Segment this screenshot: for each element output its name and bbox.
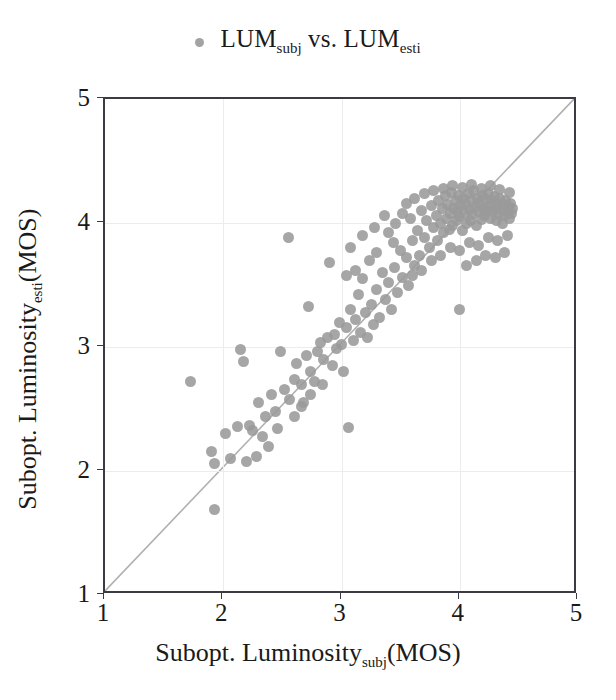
data-point: [251, 451, 262, 462]
data-point: [206, 446, 217, 457]
data-point: [336, 339, 347, 350]
data-point: [366, 299, 377, 310]
y-tick-mark: [97, 221, 103, 222]
data-point: [185, 376, 196, 387]
scatter-plot-figure: LUMsubj vs. LUMesti 12345 12345 Subopt. …: [0, 0, 616, 700]
data-point: [426, 255, 437, 266]
data-point: [454, 245, 465, 256]
data-point: [379, 210, 390, 221]
x-axis-title-unit: (MOS): [387, 638, 461, 667]
x-tick-mark: [221, 593, 222, 599]
y-tick-mark: [97, 469, 103, 470]
plot-canvas: [105, 99, 574, 591]
data-point: [257, 431, 268, 442]
data-point: [327, 360, 338, 371]
data-point: [392, 287, 403, 298]
x-axis-title: Subopt. Luminositysubj(MOS): [0, 640, 616, 670]
y-tick-label: 5: [50, 85, 90, 110]
dot-marker-icon: [195, 38, 204, 47]
data-point: [305, 389, 316, 400]
data-point: [329, 329, 340, 340]
data-point: [296, 401, 307, 412]
x-tick-label: 1: [97, 600, 110, 625]
data-point: [403, 280, 414, 291]
y-tick-mark: [97, 97, 103, 98]
data-point: [303, 301, 314, 312]
data-point: [407, 270, 418, 281]
data-point: [386, 304, 397, 315]
gridline-vertical: [460, 99, 461, 591]
y-tick-label: 3: [50, 333, 90, 358]
gridline-horizontal: [105, 471, 574, 472]
data-point: [275, 346, 286, 357]
plot-area: [103, 97, 576, 593]
x-tick-label: 3: [333, 600, 346, 625]
data-point: [301, 350, 312, 361]
data-point: [225, 453, 236, 464]
data-point: [502, 230, 513, 241]
legend-sub-esti: esti: [400, 40, 421, 56]
x-axis-title-main: Subopt. Luminosity: [155, 638, 362, 667]
x-tick-mark: [458, 593, 459, 599]
legend-text-lum2: LUM: [344, 25, 400, 52]
data-point: [232, 421, 243, 432]
x-tick-mark: [340, 593, 341, 599]
data-point: [353, 289, 364, 300]
y-tick-label: 4: [50, 209, 90, 234]
data-point: [291, 358, 302, 369]
data-point: [350, 265, 361, 276]
data-point: [317, 379, 328, 390]
legend-sub-subj: subj: [277, 40, 302, 56]
chart-legend: LUMsubj vs. LUMesti: [0, 26, 616, 56]
data-point: [341, 322, 352, 333]
x-axis-title-sub: subj: [362, 654, 387, 670]
y-tick-mark: [97, 593, 103, 594]
y-axis-title: Subopt. Luminosityesti(MOS): [15, 111, 45, 607]
data-point: [263, 441, 274, 452]
x-tick-mark: [576, 593, 577, 599]
x-tick-label: 4: [452, 600, 465, 625]
y-axis-title-main: Subopt. Luminosity: [13, 303, 42, 510]
data-point: [284, 394, 295, 405]
x-tick-label: 2: [215, 600, 228, 625]
data-point: [407, 235, 418, 246]
data-point: [341, 270, 352, 281]
data-point: [266, 389, 277, 400]
data-point: [241, 456, 252, 467]
y-tick-label: 1: [50, 581, 90, 606]
gridline-vertical: [223, 99, 224, 591]
y-tick-mark: [97, 345, 103, 346]
y-tick-label: 2: [50, 457, 90, 482]
data-point: [289, 411, 300, 422]
data-point: [473, 240, 484, 251]
data-point: [390, 218, 401, 229]
data-point: [416, 265, 427, 276]
data-point: [296, 379, 307, 390]
x-tick-label: 5: [570, 600, 583, 625]
data-point: [504, 187, 515, 198]
data-point: [270, 406, 281, 417]
legend-text-lum1: LUM: [220, 25, 276, 52]
legend-label: LUMsubj vs. LUMesti: [220, 26, 420, 56]
data-point: [414, 250, 425, 261]
y-axis-title-sub: esti: [29, 282, 45, 303]
data-point: [374, 312, 385, 323]
x-tick-mark: [103, 593, 104, 599]
data-point: [362, 332, 373, 343]
legend-text-vs: vs.: [302, 25, 344, 52]
y-axis-title-unit: (MOS): [13, 209, 42, 283]
data-point: [435, 250, 446, 261]
